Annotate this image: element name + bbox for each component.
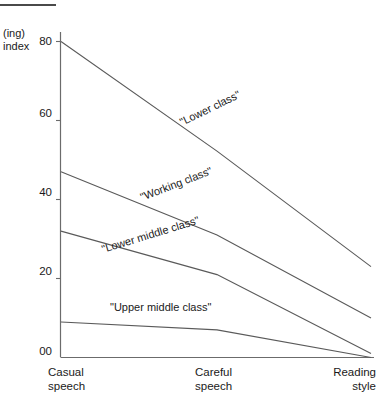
series-annotation-lower-middle-class: "Lower middle class": [100, 214, 201, 255]
series-annotation-lower-class: "Lower class": [178, 88, 243, 128]
plot-area: "Lower class" "Working class" "Lower mid…: [0, 0, 383, 402]
series-annotation-upper-middle-class: "Upper middle class": [110, 301, 211, 313]
series-line-upper-middle-class: [61, 322, 371, 358]
series-annotation-working-class: "Working class": [138, 164, 213, 202]
chart-figure: (ing) index 80 60 40 20 00 Casual speech…: [0, 0, 383, 402]
series-line-lower-class: [61, 42, 371, 267]
